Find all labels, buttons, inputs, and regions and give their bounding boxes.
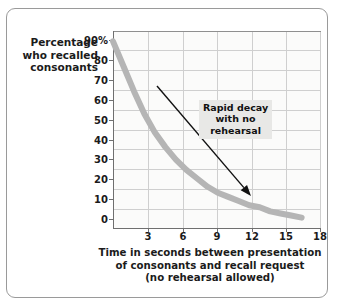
rapid-decay-annotation: Rapid decay with no rehearsal	[199, 100, 272, 139]
gridline-vertical	[183, 31, 184, 228]
plot-top-border	[113, 31, 321, 32]
y-tick-mark	[109, 60, 113, 61]
x-axis-title-line-3: (no rehearsal allowed)	[96, 272, 324, 285]
x-tick-label: 18	[305, 231, 335, 242]
y-tick-mark	[109, 120, 113, 121]
y-tick-mark	[109, 199, 113, 200]
annotation-line-2: with no	[203, 113, 268, 124]
y-tick-mark	[109, 179, 113, 180]
x-tick-label: 15	[271, 231, 301, 242]
y-tick-mark	[109, 40, 113, 41]
y-axis-line	[113, 31, 114, 228]
y-tick-label: 60	[74, 95, 108, 106]
annotation-line-3: rehearsal	[203, 125, 268, 136]
y-tick-label: 70	[74, 75, 108, 86]
annotation-line-1: Rapid decay	[203, 102, 268, 113]
y-tick-label: 30	[74, 154, 108, 165]
y-tick-label: 40	[74, 135, 108, 146]
y-tick-label: 80	[74, 55, 108, 66]
y-tick-label: 90%	[74, 35, 108, 46]
x-tick-label: 9	[202, 231, 232, 242]
y-tick-label: 10	[74, 194, 108, 205]
y-tick-label: 0	[74, 214, 108, 225]
y-tick-mark	[109, 80, 113, 81]
chart-figure: Percentage who recalled consonants 90% 8…	[0, 0, 337, 307]
x-tick-label: 12	[237, 231, 267, 242]
gridline-vertical	[286, 31, 287, 228]
y-tick-label: 20	[74, 174, 108, 185]
gridline-vertical	[148, 31, 149, 228]
x-axis-title: Time in seconds between presentation of …	[96, 247, 324, 285]
gridline-vertical	[320, 31, 321, 228]
y-tick-label: 50	[74, 115, 108, 126]
y-tick-mark	[109, 140, 113, 141]
x-axis-title-line-1: Time in seconds between presentation	[96, 247, 324, 260]
y-tick-mark	[109, 159, 113, 160]
y-tick-mark	[109, 100, 113, 101]
x-axis-title-line-2: of consonants and recall request	[96, 260, 324, 273]
x-tick-label: 3	[133, 231, 163, 242]
y-tick-mark	[109, 219, 113, 220]
x-tick-label: 6	[168, 231, 198, 242]
